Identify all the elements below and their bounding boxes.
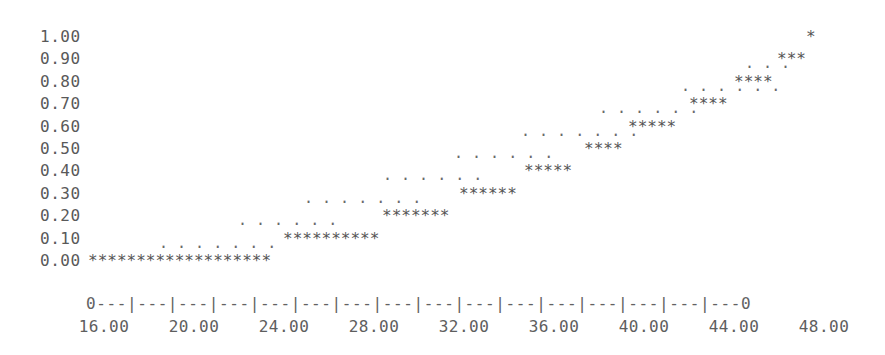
- data-marker-star: **********: [283, 231, 379, 247]
- data-marker-dot: . . . . . . .: [159, 236, 276, 251]
- data-marker-dot: . . . . . . .: [304, 191, 421, 206]
- x-axis-line: 0---|---|---|---|---|---|---|---|---|---…: [86, 296, 751, 312]
- x-axis-tick-label: 36.00: [529, 318, 580, 336]
- data-marker-dot: . . . . . .: [383, 168, 482, 183]
- x-axis-tick-label: 24.00: [259, 318, 310, 336]
- x-axis-tick-label: 28.00: [349, 318, 400, 336]
- x-axis-tick-label: 40.00: [619, 318, 670, 336]
- data-marker-dot: . . . . . . .: [521, 124, 638, 139]
- data-marker-star: ****: [689, 96, 728, 112]
- data-marker-star: ***: [777, 51, 806, 67]
- data-marker-dot: . . . . . .: [454, 146, 553, 161]
- ascii-step-plot: 1.000.900.800.700.600.500.400.300.200.10…: [0, 0, 885, 355]
- data-marker-star: ****: [584, 141, 623, 157]
- data-marker-star: *****: [628, 119, 676, 135]
- data-marker-star: *: [806, 29, 816, 45]
- x-axis-tick-label: 44.00: [709, 318, 760, 336]
- data-marker-dot: . . . . . .: [599, 101, 698, 116]
- x-axis-tick-label: 20.00: [169, 318, 220, 336]
- x-axis-labels: 16.0020.0024.0028.0032.0036.0040.0044.00…: [0, 318, 885, 340]
- x-axis-tick-label: 32.00: [439, 318, 490, 336]
- data-marker-star: *******************: [88, 253, 271, 269]
- data-marker-star: ******: [459, 186, 517, 202]
- data-marker-star: *******: [382, 208, 449, 224]
- data-marker-star: ****: [734, 74, 773, 90]
- x-axis-tick-label: 16.00: [79, 318, 130, 336]
- data-marker-dot: . . . . . .: [238, 213, 337, 228]
- x-axis-tick-label: 48.00: [799, 318, 850, 336]
- data-marker-star: *****: [524, 163, 572, 179]
